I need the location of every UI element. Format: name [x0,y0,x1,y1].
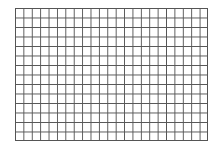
grid-lines [15,8,208,141]
canvas [0,0,219,150]
